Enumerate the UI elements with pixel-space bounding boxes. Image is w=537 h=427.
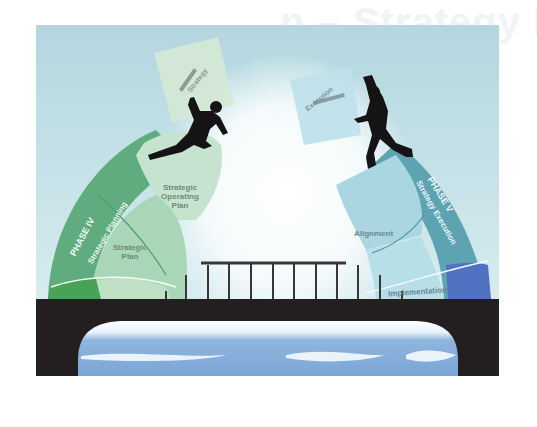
segment-alignment: Alignment	[354, 229, 414, 238]
diagram-graphics	[36, 25, 499, 400]
bridge-deck	[36, 299, 499, 376]
segment-strategic-operating-plan: Strategic Operating Plan	[154, 183, 206, 210]
segment-strategic-plan: Strategic Plan	[110, 243, 150, 261]
strategy-bridge-diagram: PHASE IV Strategic Planning Strategic Op…	[36, 25, 499, 400]
